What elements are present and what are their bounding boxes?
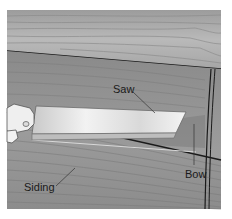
bow-label: Bow [185,169,206,180]
saw-blade [32,106,186,140]
siding-label: Siding [24,182,55,193]
saw-label: Saw [113,84,134,95]
